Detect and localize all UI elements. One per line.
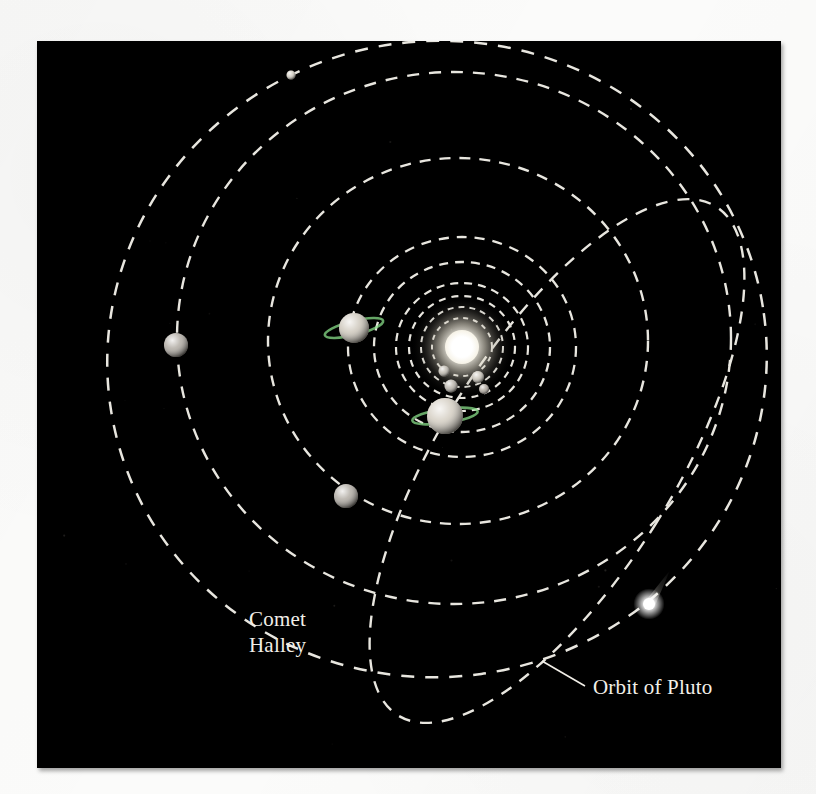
comet-nucleus — [643, 598, 655, 610]
planet-shading-mars — [479, 384, 489, 394]
planet-neptune — [334, 484, 358, 508]
sun — [410, 295, 514, 399]
planet-venus — [472, 371, 484, 383]
planet-shading-venus — [472, 371, 484, 383]
planet-shading-pluto — [287, 71, 296, 80]
comet-halley-label-line2: Halley — [249, 633, 306, 657]
sun-core — [445, 330, 479, 364]
comet-halley-label-line1: Comet — [249, 607, 306, 631]
planet-uranus — [164, 333, 188, 357]
orbit-of-pluto-label: Orbit of Pluto — [593, 675, 712, 699]
planet-shading-saturn — [339, 313, 369, 343]
sky-background — [37, 41, 781, 768]
planet-shading-neptune — [334, 484, 358, 508]
planet-shading-earth — [445, 380, 458, 393]
planet-earth — [445, 380, 458, 393]
planet-shading-uranus — [164, 333, 188, 357]
planet-shading-jupiter — [427, 398, 463, 434]
planet-pluto — [287, 71, 296, 80]
planet-shading-mercury — [439, 366, 450, 377]
solar-system-diagram: Comet Halley Orbit of Pluto — [37, 41, 781, 768]
planet-mercury — [439, 366, 450, 377]
diagram-plate: Comet Halley Orbit of Pluto — [37, 41, 781, 768]
page-background: Comet Halley Orbit of Pluto — [0, 0, 816, 794]
planet-mars — [479, 384, 489, 394]
